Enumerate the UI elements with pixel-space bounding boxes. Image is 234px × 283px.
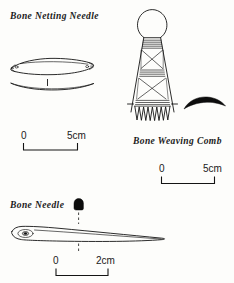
illustration-plate: Bone Netting Needle Bone Weaving Comb Bo… [0,0,234,283]
scale-needle-zero-label: 0 [53,255,59,266]
scale-netting-needle-zero-label: 0 [21,130,27,141]
comb-crosshatch-upper [141,50,163,68]
figure-label-bone-netting-needle: Bone Netting Needle [10,11,99,21]
comb-neck-bands [142,40,162,48]
drawing-bone-weaving-comb-section [184,97,226,109]
comb-crosshatch-lower [137,78,169,99]
drawing-bone-weaving-comb-face [128,10,178,121]
scale-needle-end-label: 2cm [96,255,115,266]
comb-teeth-bands [136,100,170,104]
figure-label-bone-needle: Bone Needle [10,200,64,210]
drawing-bone-needle-plan [12,226,165,241]
scale-bar-needle [56,269,108,276]
scale-weaving-comb-end-label: 5cm [203,163,222,174]
scale-weaving-comb-zero-label: 0 [159,163,165,174]
figure-label-bone-weaving-comb: Bone Weaving Comb [133,136,222,146]
drawing-bone-netting-needle-profile [11,79,94,90]
scale-netting-needle-end-label: 5cm [67,130,86,141]
scale-bar-netting-needle [24,143,78,150]
drawing-bone-netting-needle-plan [11,58,94,74]
comb-middle-bands [140,70,165,76]
scale-bar-weaving-comb [162,177,215,184]
drawing-bone-needle-section [74,199,83,252]
